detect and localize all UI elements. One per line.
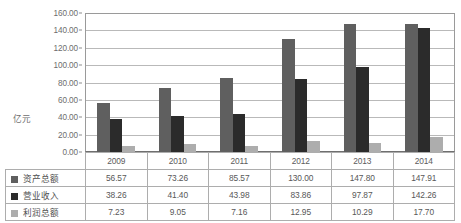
bar-series-2 bbox=[307, 141, 320, 152]
data-cell: 7.23 bbox=[86, 204, 148, 221]
y-tick-label: 100.00 bbox=[54, 61, 78, 70]
bar-group bbox=[208, 13, 270, 152]
bar-series-0 bbox=[405, 24, 418, 152]
data-cell: 38.26 bbox=[86, 187, 148, 204]
bar-series-2 bbox=[184, 144, 197, 152]
bar-group bbox=[332, 13, 394, 152]
chart-figure: 0.0020.0040.0060.0080.00100.00120.00140.… bbox=[0, 0, 461, 223]
data-cell: 83.86 bbox=[270, 187, 332, 204]
bar-series-1 bbox=[418, 28, 431, 152]
y-tick-mark bbox=[79, 65, 82, 66]
data-cell: 10.29 bbox=[332, 204, 394, 221]
year-header-cell: 2013 bbox=[332, 153, 394, 170]
table-row-years: 200920102011201220132014 bbox=[6, 153, 455, 170]
bar-series-2 bbox=[430, 137, 443, 152]
y-tick-label: 80.00 bbox=[58, 78, 78, 87]
year-header-cell: 2014 bbox=[393, 153, 455, 170]
data-cell: 56.57 bbox=[86, 170, 148, 187]
legend-label: 资产总额 bbox=[23, 174, 59, 184]
y-tick-label: 140.00 bbox=[54, 26, 78, 35]
y-tick-label: 160.00 bbox=[54, 9, 78, 18]
y-tick-label: 40.00 bbox=[58, 113, 78, 122]
y-axis: 0.0020.0040.0060.0080.00100.00120.00140.… bbox=[32, 13, 82, 152]
bar-series-1 bbox=[356, 67, 369, 152]
chart-data-table: 200920102011201220132014资产总额56.5773.2685… bbox=[5, 152, 455, 221]
bar-series-0 bbox=[282, 39, 295, 152]
bar-series-1 bbox=[171, 116, 184, 152]
y-tick-label: 20.00 bbox=[58, 130, 78, 139]
data-cell: 12.95 bbox=[270, 204, 332, 221]
table-body: 200920102011201220132014资产总额56.5773.2685… bbox=[6, 153, 455, 221]
y-tick-mark bbox=[79, 30, 82, 31]
plot-area bbox=[85, 13, 455, 152]
y-tick-label: 120.00 bbox=[54, 43, 78, 52]
bar-group bbox=[147, 13, 209, 152]
bar-series-0 bbox=[344, 24, 357, 152]
data-cell: 147.80 bbox=[332, 170, 394, 187]
legend-swatch-icon bbox=[11, 210, 18, 217]
data-cell: 17.70 bbox=[393, 204, 455, 221]
data-cell: 43.98 bbox=[209, 187, 271, 204]
year-header-cell: 2012 bbox=[270, 153, 332, 170]
legend-swatch-icon bbox=[11, 176, 18, 183]
data-cell: 85.57 bbox=[209, 170, 271, 187]
year-header-cell: 2010 bbox=[147, 153, 209, 170]
data-cell: 41.40 bbox=[147, 187, 209, 204]
bar-group bbox=[270, 13, 332, 152]
y-tick-mark bbox=[79, 13, 82, 14]
data-cell: 130.00 bbox=[270, 170, 332, 187]
bar-group-inner bbox=[332, 13, 394, 152]
year-header-cell: 2011 bbox=[209, 153, 271, 170]
bar-group-inner bbox=[147, 13, 209, 152]
bar-group-inner bbox=[270, 13, 332, 152]
data-cell: 97.87 bbox=[332, 187, 394, 204]
bar-series-2 bbox=[369, 143, 382, 152]
data-cell: 7.16 bbox=[209, 204, 271, 221]
legend-label: 营业收入 bbox=[23, 191, 59, 201]
y-tick-mark bbox=[79, 134, 82, 135]
bar-series-1 bbox=[295, 79, 308, 152]
y-tick-label: 60.00 bbox=[58, 95, 78, 104]
bar-group-inner bbox=[393, 13, 455, 152]
data-cell: 147.91 bbox=[393, 170, 455, 187]
table-row: 营业收入38.2641.4043.9883.8697.87142.26 bbox=[6, 187, 455, 204]
year-header-cell: 2009 bbox=[86, 153, 148, 170]
table-row: 资产总额56.5773.2685.57130.00147.80147.91 bbox=[6, 170, 455, 187]
bar-group-inner bbox=[208, 13, 270, 152]
bar-group bbox=[393, 13, 455, 152]
y-axis-title: 亿元 bbox=[13, 112, 31, 124]
bar-series-0 bbox=[159, 88, 172, 152]
table-corner-cell bbox=[6, 153, 86, 170]
y-tick-mark bbox=[79, 99, 82, 100]
y-tick-mark bbox=[79, 117, 82, 118]
table-row: 利润总额7.239.057.1612.9510.2917.70 bbox=[6, 204, 455, 221]
data-cell: 9.05 bbox=[147, 204, 209, 221]
y-tick-mark bbox=[79, 82, 82, 83]
bar-series-0 bbox=[97, 103, 110, 152]
data-cell: 73.26 bbox=[147, 170, 209, 187]
bar-group-inner bbox=[85, 13, 147, 152]
bar-series-0 bbox=[220, 78, 233, 152]
legend-swatch-icon bbox=[11, 193, 18, 200]
data-cell: 142.26 bbox=[393, 187, 455, 204]
bars-layer bbox=[85, 13, 455, 152]
data-table: 200920102011201220132014资产总额56.5773.2685… bbox=[5, 152, 455, 221]
y-tick-mark bbox=[79, 47, 82, 48]
bar-series-1 bbox=[233, 114, 246, 152]
legend-cell-series-2: 利润总额 bbox=[6, 204, 86, 221]
legend-cell-series-0: 资产总额 bbox=[6, 170, 86, 187]
bar-group bbox=[85, 13, 147, 152]
legend-label: 利润总额 bbox=[23, 208, 59, 218]
bar-series-1 bbox=[110, 119, 123, 152]
legend-cell-series-1: 营业收入 bbox=[6, 187, 86, 204]
